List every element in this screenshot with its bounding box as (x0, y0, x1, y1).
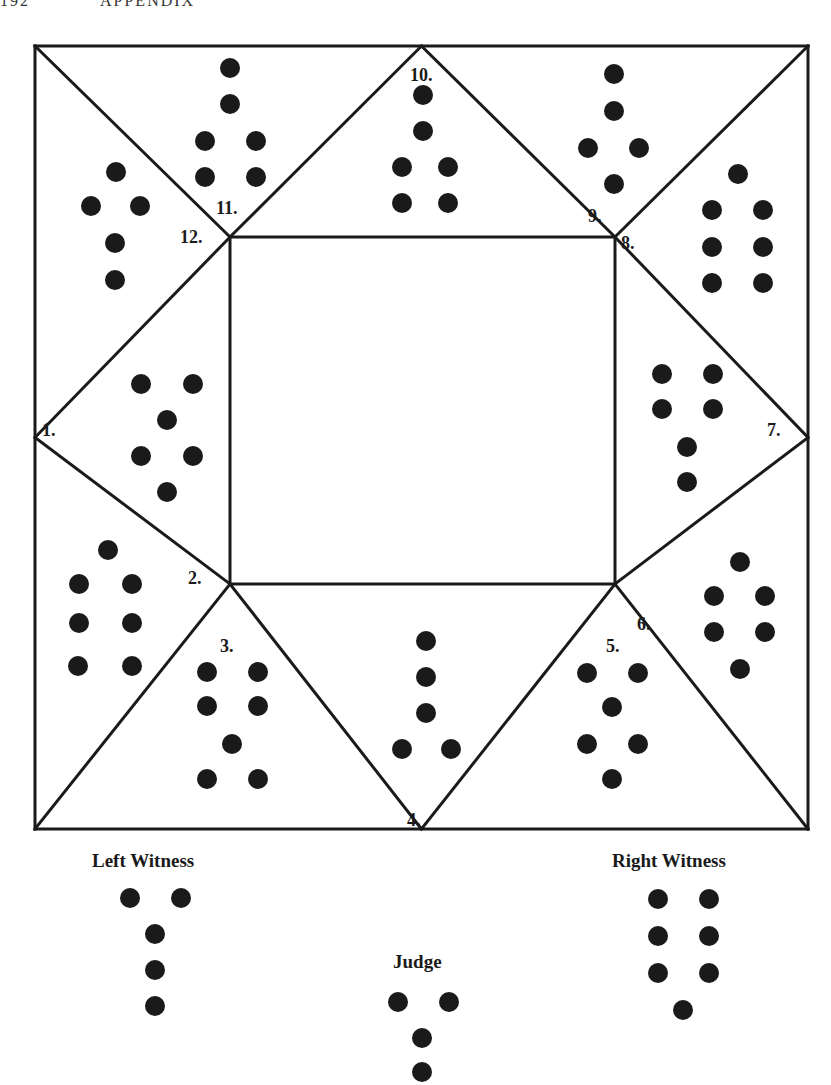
geomantic-dot (183, 374, 203, 394)
house-6: 6. (637, 552, 775, 679)
geomantic-dot (392, 739, 412, 759)
chart-line (35, 237, 230, 438)
geomantic-dot (122, 574, 142, 594)
geomantic-dot (677, 472, 697, 492)
geomantic-dot (416, 631, 436, 651)
geomantic-dot (438, 157, 458, 177)
house-number-label: 8. (621, 233, 635, 253)
geomantic-dot (246, 131, 266, 151)
geomantic-dot (628, 734, 648, 754)
geomantic-dot (704, 622, 724, 642)
geomantic-dot (648, 963, 668, 983)
geomantic-dot (145, 996, 165, 1016)
left-witness-label: Left Witness (92, 850, 194, 871)
house-number-label: 9. (588, 206, 602, 226)
house-number-label: 2. (188, 568, 202, 588)
house-8: 8. (621, 164, 773, 293)
geomantic-dot (438, 193, 458, 213)
geomantic-dot (392, 157, 412, 177)
geomantic-dot (755, 622, 775, 642)
chart-line (422, 584, 616, 829)
geomantic-dot (105, 233, 125, 253)
geomantic-dot (157, 410, 177, 430)
house-4: 4. (392, 631, 461, 830)
house-number-label: 10. (410, 65, 433, 85)
witnesses-layer: Left WitnessRight WitnessJudge (92, 850, 726, 1082)
geomantic-dot (246, 167, 266, 187)
geomantic-dot (248, 696, 268, 716)
geomantic-dot (171, 888, 191, 908)
geomantic-dot (69, 574, 89, 594)
shield-chart-diagram: 1.2.3.4.5.6.7.8.9.10.11.12. Left Witness… (0, 0, 831, 1085)
geomantic-dot (120, 888, 140, 908)
geomantic-dot (98, 540, 118, 560)
geomantic-dot (392, 193, 412, 213)
geomantic-dot (652, 364, 672, 384)
house-11: 11. (195, 58, 266, 218)
geomantic-dot (197, 769, 217, 789)
geomantic-dot (220, 94, 240, 114)
geomantic-dot (699, 889, 719, 909)
judge-label: Judge (393, 951, 442, 972)
geomantic-dot (648, 926, 668, 946)
geomantic-dot (195, 167, 215, 187)
geomantic-dot (416, 667, 436, 687)
house-2: 2. (68, 540, 202, 676)
geomantic-dot (105, 270, 125, 290)
house-number-label: 4. (407, 810, 421, 830)
geomantic-dot (197, 696, 217, 716)
geomantic-dot (728, 164, 748, 184)
geomantic-dot (730, 552, 750, 572)
geomantic-dot (753, 237, 773, 257)
geomantic-dot (69, 613, 89, 633)
geomantic-dot (652, 399, 672, 419)
geomantic-dot (122, 613, 142, 633)
geomantic-dot (753, 273, 773, 293)
geomantic-dot (248, 769, 268, 789)
geomantic-dot (81, 196, 101, 216)
geomantic-dot (131, 446, 151, 466)
geomantic-dot (577, 663, 597, 683)
geomantic-dot (602, 697, 622, 717)
left-witness-figure: Left Witness (92, 850, 194, 1016)
geomantic-dot (416, 703, 436, 723)
geomantic-dot (183, 446, 203, 466)
geomantic-dot (629, 138, 649, 158)
geomantic-dot (157, 482, 177, 502)
geomantic-dot (145, 960, 165, 980)
geomantic-dot (703, 399, 723, 419)
geomantic-dot (413, 121, 433, 141)
house-5: 5. (577, 636, 648, 789)
geomantic-dot (131, 374, 151, 394)
house-number-label: 11. (216, 198, 238, 218)
house-number-label: 7. (767, 420, 781, 440)
geomantic-dot (388, 992, 408, 1012)
geomantic-dot (68, 656, 88, 676)
geomantic-dot (602, 769, 622, 789)
geomantic-dot (702, 273, 722, 293)
geomantic-dot (220, 58, 240, 78)
house-10: 10. (392, 65, 458, 213)
geomantic-dot (702, 200, 722, 220)
geomantic-dot (441, 739, 461, 759)
geomantic-dot (604, 174, 624, 194)
geomantic-dot (577, 734, 597, 754)
geomantic-dot (699, 963, 719, 983)
geomantic-dot (628, 663, 648, 683)
geomantic-dot (130, 196, 150, 216)
geomantic-dot (195, 131, 215, 151)
geomantic-dot (604, 101, 624, 121)
geomantic-dot (755, 586, 775, 606)
geomantic-dot (145, 924, 165, 944)
geomantic-dot (106, 162, 126, 182)
house-3: 3. (197, 636, 268, 789)
geomantic-dot (413, 85, 433, 105)
geomantic-dot (412, 1028, 432, 1048)
geomantic-dot (677, 437, 697, 457)
geomantic-dot (439, 992, 459, 1012)
houses-layer: 1.2.3.4.5.6.7.8.9.10.11.12. (42, 58, 781, 830)
chart-line (615, 438, 808, 585)
geomantic-dot (248, 662, 268, 682)
house-1: 1. (42, 374, 203, 502)
geomantic-dot (704, 586, 724, 606)
